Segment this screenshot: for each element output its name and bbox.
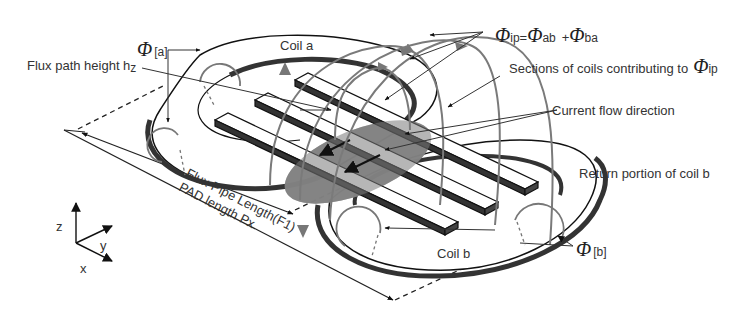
coil-b-label: Coil b: [437, 246, 470, 261]
current-flow-direction-label: Current flow direction: [552, 103, 675, 118]
phi-b-label: Φ[b]: [576, 238, 607, 260]
dd-coil-flux-diagram: z y x Φ[a] Flux path height hz Coil a Φi…: [0, 0, 740, 317]
return-portion-label: Return portion of coil b: [579, 166, 710, 181]
coil-a-label: Coil a: [280, 38, 314, 53]
axis-triad: [76, 203, 112, 261]
sections-contributing-label: Sections of coils contributing toΦip: [509, 55, 718, 77]
axis-x-label: x: [80, 261, 87, 276]
flux-path-height-label: Flux path height hz: [27, 58, 136, 75]
phi-a-label: Φ[a]: [137, 38, 168, 60]
axis-y-label: y: [100, 238, 107, 253]
phi-ip-equation: Φip=Φab+Φba: [495, 24, 598, 46]
axis-z-label: z: [56, 219, 63, 234]
